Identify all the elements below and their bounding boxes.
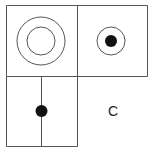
cell-label-c: C <box>101 103 125 119</box>
inner-circle <box>27 27 55 55</box>
center-dot <box>105 35 117 47</box>
puzzle-diagram <box>0 0 149 148</box>
outer-circle <box>17 17 65 65</box>
line-dot <box>36 105 48 117</box>
